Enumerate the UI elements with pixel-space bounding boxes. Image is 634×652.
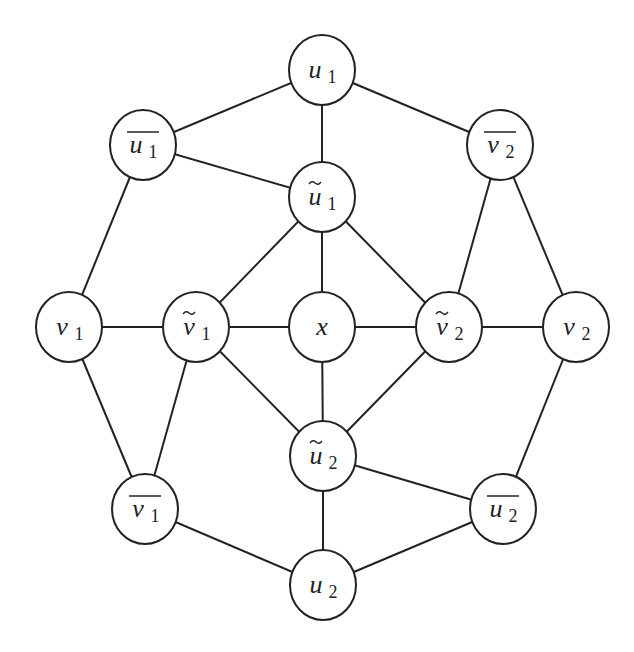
node-label: v <box>487 130 499 159</box>
graph-svg: u1u1v2u1v1v1xv2v2u2v1u2u2 <box>0 0 634 652</box>
node-subscript: 1 <box>202 324 211 344</box>
node-circle <box>289 162 355 232</box>
node-u2: u2 <box>290 550 356 620</box>
node-v1tilde: v1 <box>163 292 229 362</box>
node-x: x <box>289 292 355 362</box>
node-label: u <box>130 130 143 159</box>
node-circle <box>289 35 355 105</box>
node-label: u <box>309 182 322 211</box>
node-circle <box>416 292 482 362</box>
node-v2: v2 <box>543 292 609 362</box>
node-circle <box>163 292 229 362</box>
node-label: v <box>183 312 195 341</box>
node-label: v <box>56 312 68 341</box>
node-v2tilde: v2 <box>416 292 482 362</box>
node-label: u <box>490 494 503 523</box>
node-subscript: 2 <box>455 324 464 344</box>
node-u1bar: u1 <box>110 110 176 180</box>
node-v2bar: v2 <box>467 110 533 180</box>
node-u2bar: u2 <box>470 474 536 544</box>
node-u1: u1 <box>289 35 355 105</box>
node-circle <box>290 550 356 620</box>
node-circle <box>110 110 176 180</box>
node-circle <box>467 110 533 180</box>
node-subscript: 2 <box>329 582 338 602</box>
node-subscript: 1 <box>75 324 84 344</box>
node-label: v <box>436 312 448 341</box>
node-circle <box>470 474 536 544</box>
node-u1tilde: u1 <box>289 162 355 232</box>
graph-diagram: u1u1v2u1v1v1xv2v2u2v1u2u2 <box>0 0 634 652</box>
node-u2tilde: u2 <box>290 421 356 491</box>
node-subscript: 1 <box>328 194 337 214</box>
node-label: u <box>310 570 323 599</box>
node-subscript: 2 <box>582 324 591 344</box>
node-circle <box>290 421 356 491</box>
node-label: u <box>310 441 323 470</box>
node-circle <box>543 292 609 362</box>
node-circle <box>36 292 102 362</box>
node-subscript: 1 <box>149 142 158 162</box>
node-subscript: 2 <box>329 453 338 473</box>
node-label: v <box>563 312 575 341</box>
node-subscript: 1 <box>151 506 160 526</box>
node-subscript: 1 <box>328 67 337 87</box>
node-circle <box>112 474 178 544</box>
node-label: v <box>132 494 144 523</box>
node-v1: v1 <box>36 292 102 362</box>
node-label: u <box>309 55 322 84</box>
node-subscript: 2 <box>509 506 518 526</box>
node-subscript: 2 <box>506 142 515 162</box>
node-label: x <box>315 312 328 341</box>
node-v1bar: v1 <box>112 474 178 544</box>
